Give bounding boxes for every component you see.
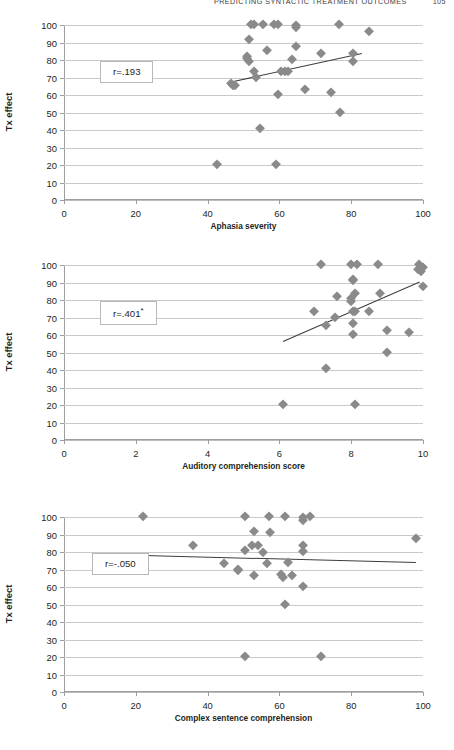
x-axis-tick [351,692,352,696]
y-gridline [64,405,423,406]
y-axis-tick [60,405,64,406]
x-axis-title: Aphasia severity [64,221,423,231]
plot-area: 0102030405060708090100020406080100r=.193 [64,25,423,200]
data-point-marker [278,400,287,409]
x-axis-tick-label: 2 [133,448,138,459]
x-axis-tick-label: 20 [131,700,141,711]
data-point-marker [298,582,307,591]
correlation-annotation: r=-.050 [92,553,149,575]
y-axis-tick [60,552,64,553]
y-gridline [64,165,423,166]
data-point-marker [250,570,259,579]
y-axis-tick [60,60,64,61]
x-axis-tick-label: 0 [61,700,66,711]
y-axis-tick-label: 70 [47,72,57,83]
y-axis-tick-label: 10 [47,177,57,188]
data-point-marker [316,652,325,661]
data-point-marker [219,558,228,567]
scatter-chart-complex-sentence-comprehension: Tx effect 010203040506070809010002040608… [0,500,454,750]
correlation-annotation: r=.193 [100,61,153,83]
y-axis-tick [60,587,64,588]
y-axis-tick-label: 30 [47,142,57,153]
y-gridline [64,265,423,266]
data-point-marker [321,363,330,372]
running-head-title: Predicting syntactic treatment outcomes [214,0,407,6]
x-axis-tick [423,692,424,696]
y-gridline [64,183,423,184]
y-axis-tick-label: 80 [47,55,57,66]
data-point-marker [212,160,221,169]
y-axis-tick [60,300,64,301]
y-axis-tick [60,605,64,606]
plot-area: 0102030405060708090100020406080100r=-.05… [64,517,423,692]
scatter-chart-auditory-comprehension: Tx effect 01020304050607080901000246810r… [0,248,454,500]
y-axis-title: Tx effect [3,333,14,372]
data-point-marker [280,599,289,608]
data-point-marker [365,26,374,35]
data-point-marker [189,540,198,549]
data-point-marker [255,124,264,133]
x-axis-tick [279,440,280,444]
x-axis-tick-label: 10 [418,448,428,459]
x-axis-tick [208,440,209,444]
y-axis-tick-label: 40 [47,125,57,136]
x-axis-title: Auditory comprehension score [64,461,423,471]
y-axis-tick-label: 10 [47,669,57,680]
y-gridline [64,388,423,389]
y-gridline [64,692,423,693]
y-gridline [64,587,423,588]
y-axis-tick [60,78,64,79]
y-axis-tick-label: 30 [47,382,57,393]
y-axis-tick-label: 40 [47,617,57,628]
y-axis-tick-label: 60 [47,90,57,101]
x-axis-tick-label: 60 [274,208,284,219]
y-axis-tick-label: 0 [52,435,57,446]
x-axis-tick-label: 6 [277,448,282,459]
significance-asterisk: * [140,306,143,315]
data-point-marker [241,512,250,521]
data-point-marker [316,260,325,269]
x-axis-tick-label: 0 [61,208,66,219]
data-point-marker [259,20,268,29]
correlation-value: r=.401 [113,308,140,319]
data-point-marker [266,528,275,537]
x-axis-tick-label: 100 [415,208,431,219]
x-axis-title: Complex sentence comprehension [64,713,423,723]
y-axis-tick-label: 60 [47,330,57,341]
y-axis-tick [60,570,64,571]
y-axis-tick-label: 50 [47,347,57,358]
y-axis-tick-label: 20 [47,400,57,411]
x-axis-tick [279,692,280,696]
y-axis-tick [60,353,64,354]
y-axis-tick [60,283,64,284]
y-gridline [64,622,423,623]
y-axis-tick-label: 70 [47,312,57,323]
y-axis-tick-label: 90 [47,37,57,48]
y-gridline [64,640,423,641]
y-gridline [64,370,423,371]
x-axis-tick [64,200,65,204]
y-axis-tick-label: 100 [41,260,57,271]
y-gridline [64,130,423,131]
y-axis-tick [60,335,64,336]
x-axis-tick [423,200,424,204]
trend-line [143,555,416,563]
y-gridline [64,283,423,284]
y-axis-tick [60,657,64,658]
y-gridline [64,95,423,96]
data-point-marker [138,512,147,521]
scatter-chart-aphasia-severity: Tx effect 010203040506070809010002040608… [0,8,454,248]
y-axis-tick [60,423,64,424]
y-axis-tick [60,675,64,676]
plot-area: 01020304050607080901000246810r=.401* [64,265,423,440]
correlation-value: r=.193 [113,66,140,77]
data-point-marker [280,512,289,521]
y-gridline [64,335,423,336]
data-point-marker [309,306,318,315]
x-axis-tick-label: 60 [274,700,284,711]
x-axis-tick-label: 8 [349,448,354,459]
x-axis-tick-label: 20 [131,208,141,219]
y-axis-tick-label: 80 [47,547,57,558]
y-gridline [64,423,423,424]
y-axis-tick-label: 70 [47,564,57,575]
